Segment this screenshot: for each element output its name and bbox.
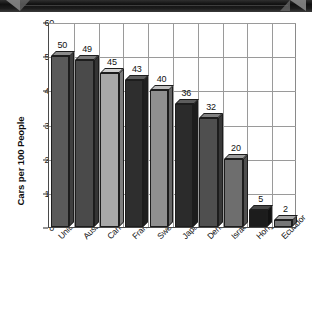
bar-value-label: 43 [122,64,152,74]
bar[interactable] [150,90,169,227]
bar-value-label: 20 [221,143,251,153]
bar-front-face [175,104,194,227]
bar[interactable] [75,60,94,227]
bar-front-face [51,56,70,227]
bar-value-label: 40 [147,74,177,84]
y-axis-title: Cars per 100 People [15,91,26,231]
bar[interactable] [51,56,70,227]
bar-side-face [218,113,223,227]
bar-front-face [125,80,144,227]
bar[interactable] [224,159,243,227]
bar-front-face [150,90,169,227]
bar-side-face [193,99,198,227]
bar-side-face [119,68,124,227]
banner-wedge-left-icon [6,0,20,11]
bar-side-face [69,51,74,227]
bar-value-label: 36 [171,88,201,98]
banner-hairline [24,5,288,6]
bar-front-face [224,159,243,227]
plot-area: 504945434036322052 [48,23,296,228]
bar[interactable] [249,210,268,227]
bar-side-face [143,75,148,227]
bar-chart: Cars per 100 People 0102030405060 United… [0,12,312,309]
bar[interactable] [199,118,218,227]
bar-front-face [199,118,218,227]
decorative-top-banner [0,0,312,12]
bar-side-face [243,154,248,227]
bar-value-label: 49 [72,44,102,54]
bar[interactable] [125,80,144,227]
bar-value-label: 5 [246,194,276,204]
banner-wedge-right-secondary-icon [280,0,290,11]
bar-front-face [75,60,94,227]
bar[interactable] [175,104,194,227]
banner-wedge-right-icon [290,0,306,11]
bar-front-face [274,220,293,227]
bar[interactable] [274,220,293,227]
bar-value-label: 32 [196,102,226,112]
bar-front-face [249,210,268,227]
bar-value-label: 2 [271,204,301,214]
bar-side-face [168,85,173,227]
bar[interactable] [100,73,119,227]
bar-side-face [94,55,99,227]
bar-front-face [100,73,119,227]
